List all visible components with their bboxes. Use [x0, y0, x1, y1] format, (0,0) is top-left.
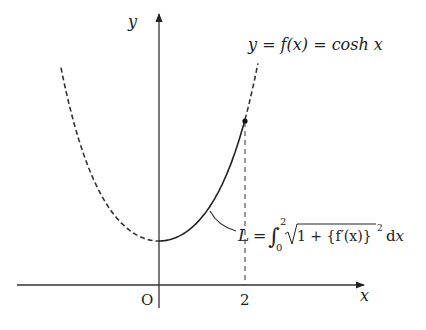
leader-line: [210, 211, 236, 231]
integrand: 1 + {f′(x)}: [297, 228, 372, 244]
curve-arc-solid: [159, 120, 245, 242]
formula-lhs: L: [237, 225, 249, 245]
integral-upper: 2: [280, 216, 286, 227]
origin-label: O: [141, 291, 153, 309]
integrand-power: 2: [377, 223, 383, 233]
x-axis-label: x: [360, 286, 369, 305]
cosh-arc-length-diagram: y x O 2 y = f(x) = cosh x L = ∫ 2 0 1 + …: [0, 0, 426, 330]
integral-lower: 0: [276, 242, 282, 253]
function-label: y = f(x) = cosh x: [247, 35, 383, 54]
endpoint-dot: [242, 118, 247, 123]
arc-length-formula: L = ∫ 2 0 1 + {f′(x)} 2 dx: [237, 216, 405, 253]
curve-right-dashed: [245, 63, 258, 119]
y-axis-label: y: [127, 12, 138, 31]
formula-eq: =: [253, 226, 266, 245]
x-tick-2-label: 2: [240, 291, 250, 309]
differential: dx: [386, 227, 405, 245]
curve-left-dashed: [61, 68, 159, 241]
